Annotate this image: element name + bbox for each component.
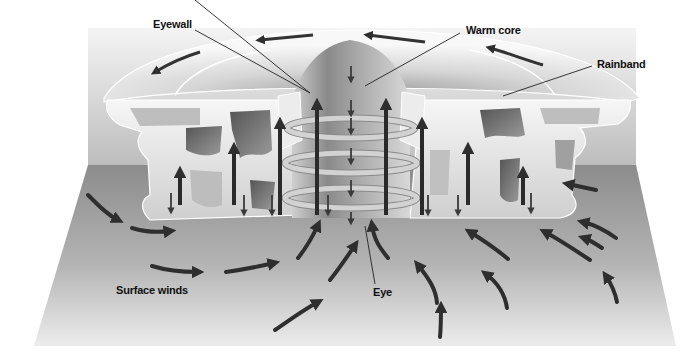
- label-warm-core: Warm core: [466, 24, 521, 36]
- label-eyewall: Eyewall: [153, 18, 192, 30]
- hurricane-diagram: [0, 0, 699, 360]
- label-rainband: Rainband: [597, 58, 646, 70]
- label-eye: Eye: [373, 286, 392, 298]
- label-surface-winds: Surface winds: [116, 284, 188, 296]
